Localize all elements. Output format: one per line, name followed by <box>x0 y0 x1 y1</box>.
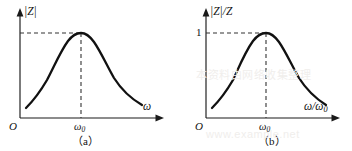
resonance-curve-b <box>212 33 326 108</box>
x-tick-omega0-sub-b: 0 <box>266 125 270 134</box>
caption-b: （b） <box>258 136 286 147</box>
panel-a: |Z| ω O ω0 （a） <box>0 0 176 151</box>
y-axis-label-a: |Z| <box>24 6 37 18</box>
y-axis-arrow-a <box>17 8 24 17</box>
x-tick-omega0-b: ω0 <box>259 122 270 133</box>
x-axis-label-sub-b: 0 <box>323 105 327 114</box>
origin-label-a: O <box>9 121 17 132</box>
y-tick-one-b: 1 <box>196 27 202 38</box>
resonance-curve-a <box>26 33 142 108</box>
x-axis-label-b: ω/ω0 <box>304 101 328 114</box>
x-axis-label-a: ω <box>143 101 151 113</box>
caption-a: （a） <box>72 136 99 147</box>
y-axis-arrow-b <box>203 8 210 17</box>
panel-b: |Z|/Z 1 ω/ω0 O ω0 （b） <box>176 0 352 151</box>
y-axis-label-b: |Z|/Z <box>210 6 232 18</box>
x-tick-omega0-a: ω0 <box>74 122 85 133</box>
x-axis-arrow-a <box>156 115 165 122</box>
x-axis-label-base-b: ω/ω <box>304 100 323 112</box>
origin-label-b: O <box>195 121 203 132</box>
panel-a-plot <box>0 0 176 151</box>
x-axis-arrow-b <box>332 115 341 122</box>
resonance-figure: |Z| ω O ω0 （a） |Z|/Z 1 ω/ω0 O ω0 （b） 本资料… <box>0 0 352 151</box>
x-tick-omega0-sub-a: 0 <box>81 125 85 134</box>
